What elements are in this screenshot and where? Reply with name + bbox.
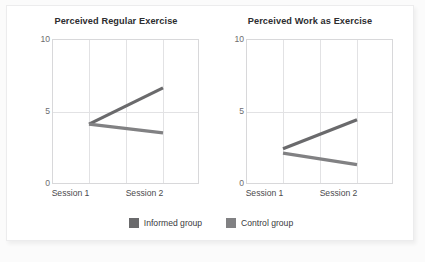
series-line-control-group xyxy=(89,124,163,133)
legend-label-informed: Informed group xyxy=(144,218,202,228)
y-tick-label-0-left: 0 xyxy=(22,179,50,188)
legend-swatch-informed xyxy=(129,218,139,228)
y-tick-label-10-right: 10 xyxy=(216,35,244,44)
y-tick-label-5-left: 5 xyxy=(22,107,50,116)
y-tick-label-0-right: 0 xyxy=(216,179,244,188)
y-tick-label-5-right: 5 xyxy=(216,107,244,116)
legend-label-control: Control group xyxy=(241,218,293,228)
chart-title-right: Perceived Work as Exercise xyxy=(215,16,405,26)
series-lines-right xyxy=(247,40,394,185)
y-axis-left: 10 5 0 xyxy=(21,39,50,184)
y-tick-label-10-left: 10 xyxy=(22,35,50,44)
series-lines-left xyxy=(53,40,200,185)
chart-legend: Informed group Control group xyxy=(7,218,415,228)
series-line-informed-group xyxy=(89,88,163,124)
y-axis-right: 10 5 0 xyxy=(215,39,244,184)
x-tick-label-session-1-left: Session 1 xyxy=(34,188,107,198)
figure-root: Perceived Regular Exercise 10 5 0 Sessio… xyxy=(0,0,425,262)
series-line-informed-group xyxy=(283,120,357,149)
chart-title-left: Perceived Regular Exercise xyxy=(21,16,211,26)
x-tick-label-session-2-left: Session 2 xyxy=(108,188,181,198)
series-line-control-group xyxy=(283,153,357,165)
plot-area-left xyxy=(52,39,199,184)
chart-card: Perceived Regular Exercise 10 5 0 Sessio… xyxy=(6,5,414,241)
legend-item-control: Control group xyxy=(226,218,293,228)
x-tick-label-session-1-right: Session 1 xyxy=(228,188,301,198)
legend-item-informed: Informed group xyxy=(129,218,202,228)
chart-panel-perceived-work-as-exercise: Perceived Work as Exercise 10 5 0 Sessio… xyxy=(215,16,405,206)
x-tick-label-session-2-right: Session 2 xyxy=(302,188,375,198)
legend-swatch-control xyxy=(226,218,236,228)
plot-area-right xyxy=(246,39,393,184)
chart-panel-perceived-regular-exercise: Perceived Regular Exercise 10 5 0 Sessio… xyxy=(21,16,211,206)
